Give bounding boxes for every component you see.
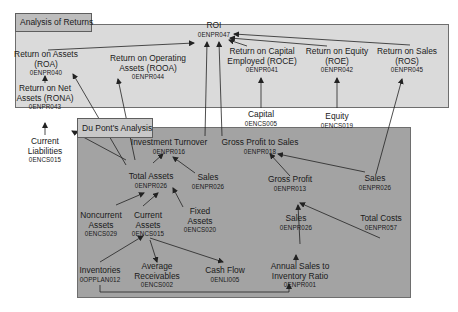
node-roi[interactable]: ROI 0ENPR047 xyxy=(198,21,230,39)
node-inventories[interactable]: Inventories 0OPPLAN012 xyxy=(80,266,121,284)
node-roa[interactable]: Return on Assets (ROA) 0ENPR040 xyxy=(14,50,78,77)
node-roe[interactable]: Return on Equity (ROE) 0ENPR042 xyxy=(306,47,368,74)
node-gross-profit-to-sales[interactable]: Gross Profit to Sales 0ENPR018 xyxy=(222,138,299,156)
node-roce[interactable]: Return on Capital Employed (ROCE) 0ENPR0… xyxy=(227,47,296,74)
node-equity[interactable]: Equity 0ENCS019 xyxy=(321,112,353,130)
node-gross-profit[interactable]: Gross Profit 0ENPR013 xyxy=(268,175,312,193)
node-current-assets[interactable]: Current Assets 0ENCS015 xyxy=(132,211,164,238)
node-sales-gross-profit[interactable]: Sales 0ENPR026 xyxy=(280,214,312,232)
node-noncurrent-assets[interactable]: Noncurrent Assets 0ENCS029 xyxy=(80,211,121,238)
node-fixed-assets[interactable]: Fixed Assets 0ENCS020 xyxy=(184,207,216,234)
node-sales-investment[interactable]: Sales 0ENPR026 xyxy=(192,173,224,191)
node-current-liabilities[interactable]: Current Liabilities 0ENCS015 xyxy=(28,137,62,164)
node-total-assets[interactable]: Total Assets 0ENPR026 xyxy=(129,172,174,190)
node-capital[interactable]: Capital 0ENCS005 xyxy=(245,110,277,128)
node-annual-sales-to-inventory[interactable]: Annual Sales to Inventory Ratio 0ENPR001 xyxy=(271,262,330,289)
node-total-costs[interactable]: Total Costs 0ENPR057 xyxy=(360,214,401,232)
node-average-receivables[interactable]: Average Receivables 0ENCS002 xyxy=(134,262,180,289)
node-investment-turnover[interactable]: Investment Turnover 0ENPR016 xyxy=(131,138,207,156)
node-cash-flow[interactable]: Cash Flow 0ENLI005 xyxy=(205,266,245,284)
node-rona[interactable]: Return on Net Assets (RONA) 0ENPR043 xyxy=(16,84,73,111)
node-sales-gps[interactable]: Sales 0ENPR026 xyxy=(359,174,391,192)
analysis-of-returns-label: Analysis of Returns xyxy=(15,13,92,32)
node-ros[interactable]: Return on Sales (ROS) 0ENPR045 xyxy=(377,47,437,74)
node-rooa[interactable]: Return on Operating Assets (ROOA) 0ENPR0… xyxy=(110,54,186,81)
du-ponts-analysis-label: Du Pont's Analysis xyxy=(77,118,153,138)
